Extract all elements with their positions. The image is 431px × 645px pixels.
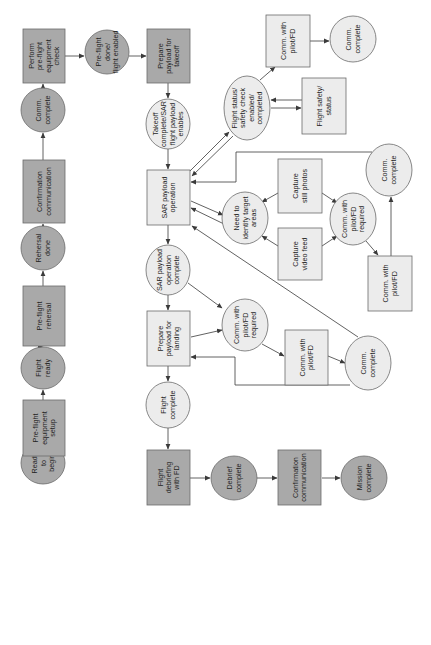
node-perform-check: Performpre-flightequipmentcheck bbox=[23, 29, 65, 83]
node-rehersal: Pre-flightrehersal bbox=[23, 286, 65, 346]
node-debrief-complete: Debriefcomplete bbox=[211, 456, 257, 500]
node-label-line: completed bbox=[255, 91, 264, 124]
edge-comm-pilot-req-low-to-comm-pilot-low bbox=[262, 344, 284, 356]
node-label-line: complete bbox=[364, 463, 373, 492]
node-flight-status-check: Flight status/safety checkenabled/comple… bbox=[224, 76, 270, 140]
edge-comm-pilot-req-mid-to-comm-pilot-mid bbox=[366, 241, 378, 255]
node-sar-op-complete: SAR payloadoperationcomplete bbox=[146, 245, 190, 295]
node-label: Missioncomplete bbox=[355, 463, 372, 492]
node-label-line: complete bbox=[389, 155, 398, 184]
node-preflight-done: Pre-flightdone/flight enabled bbox=[85, 30, 129, 74]
node-flight-ready: Flightready bbox=[21, 347, 65, 389]
edge-comm-pilot-low-to-comm-complete-low bbox=[328, 356, 345, 363]
node-comm-pilot-top: Comm. withpilot/FD bbox=[266, 15, 310, 67]
node-flight-complete: Flightcomplete bbox=[146, 382, 190, 428]
node-label-line: complete bbox=[234, 463, 243, 492]
node-label-line: video feed bbox=[300, 237, 309, 270]
node-label-line: complete bbox=[368, 348, 377, 377]
node-label: Confirmationcommunication bbox=[291, 453, 308, 501]
node-equip-setup: Pre-flightequipmentsetup bbox=[23, 400, 65, 456]
edge-prepare-landing-to-comm-pilot-req-low bbox=[191, 330, 222, 337]
node-label-line: operation bbox=[168, 183, 177, 213]
node-label-line: pilot/FD bbox=[288, 29, 297, 54]
node-label-line: communication bbox=[299, 453, 308, 501]
node-comm-complete-low: Comm.complete bbox=[345, 336, 391, 390]
node-label: Flightready bbox=[34, 359, 51, 377]
node-label: Comm.complete bbox=[380, 155, 397, 184]
node-label-line: takeoff bbox=[172, 45, 181, 66]
edge-flight-status-check-to-comm-pilot-top bbox=[260, 67, 275, 80]
edge-sar-operation-to-flight-status-check bbox=[189, 132, 229, 172]
node-label: Comm.complete bbox=[359, 348, 376, 377]
edge-capture-video-to-comm-pilot-req-mid bbox=[322, 236, 337, 246]
node-label-line: complete bbox=[168, 390, 177, 419]
edge-flight-status-check-to-sar-operation bbox=[192, 136, 233, 176]
node-label-line: communication bbox=[44, 167, 53, 215]
node-comm-complete-1: Comm.complete bbox=[21, 88, 65, 132]
node-label-line: landing bbox=[172, 327, 181, 350]
node-confirm-comm-1: Confirmationcommunication bbox=[23, 160, 65, 223]
node-label: Pre-flightrehersal bbox=[35, 302, 52, 331]
node-rehersal-done: Rehersaldone bbox=[21, 226, 65, 270]
node-label-line: begin bbox=[47, 454, 56, 472]
edge-comm-complete-low-to-sar-operation bbox=[192, 226, 358, 337]
edge-sar-operation-to-identify-targets bbox=[191, 201, 223, 215]
node-mission-complete: Missioncomplete bbox=[341, 456, 387, 500]
node-takeoff-complete: Takeoffcomplete/SARflight payloadenables bbox=[146, 99, 190, 149]
node-label-line: complete bbox=[353, 24, 362, 53]
node-label-line: required bbox=[249, 312, 258, 338]
node-label: SAR payloadoperation bbox=[160, 177, 177, 219]
node-label: Flight status/safety checkenabled/comple… bbox=[230, 88, 264, 129]
node-label-line: pilot/FD bbox=[306, 345, 315, 370]
node-label-line: status bbox=[324, 96, 333, 116]
node-label-line: complete bbox=[43, 95, 52, 124]
node-label-line: complete bbox=[172, 255, 181, 284]
sar-mission-flowchart: ReadytobeginPre-flightequipmentsetupFlig… bbox=[0, 0, 431, 645]
edge-capture-video-to-identify-targets bbox=[262, 236, 278, 246]
edge-identify-targets-to-sar-operation bbox=[191, 208, 224, 224]
node-comm-pilot-mid: Comm. withpilot/FD bbox=[368, 256, 412, 311]
node-comm-pilot-low: Comm. withpilot/FD bbox=[285, 330, 328, 385]
node-label-line: setup bbox=[48, 419, 57, 437]
node-label-line: required bbox=[357, 206, 366, 232]
node-debriefing: Flightdebriefingwith FD bbox=[147, 450, 190, 505]
node-label-line: rehersal bbox=[44, 303, 53, 329]
node-label-line: with FD bbox=[172, 465, 181, 490]
node-label: Comm.complete bbox=[34, 95, 51, 124]
node-identify-targets: Need toidentify targetareas bbox=[222, 192, 268, 244]
node-prepare-takeoff: Preparepayload fortakeoff bbox=[147, 29, 190, 83]
node-capture-video: Capturevideo feed bbox=[278, 228, 322, 280]
node-comm-complete-top: Comm.complete bbox=[330, 16, 376, 62]
edge-sar-op-complete-to-comm-pilot-req-low bbox=[188, 283, 222, 308]
node-label: Comm.complete bbox=[344, 24, 361, 53]
edge-capture-photos-to-identify-targets bbox=[262, 193, 278, 202]
node-label-line: ready bbox=[43, 359, 52, 377]
node-label: Debriefcomplete bbox=[225, 463, 242, 492]
node-flight-safety-status: Flight safety/status bbox=[302, 78, 346, 134]
node-label: Capturevideo feed bbox=[291, 237, 308, 270]
edge-capture-photos-to-comm-pilot-req-mid bbox=[322, 193, 337, 203]
node-label-line: areas bbox=[249, 209, 258, 227]
node-comm-pilot-req-low: Comm. withpilot/FDrequired bbox=[222, 299, 268, 351]
node-confirm-comm-2: Confirmationcommunication bbox=[278, 450, 321, 505]
node-label-line: check bbox=[52, 46, 61, 65]
node-sar-operation: SAR payloadoperation bbox=[147, 170, 190, 225]
nodes-layer: ReadytobeginPre-flightequipmentsetupFlig… bbox=[21, 15, 412, 505]
node-comm-pilot-req-mid: Comm. withpilot/FDrequired bbox=[330, 193, 376, 245]
node-label-line: enables bbox=[176, 111, 185, 137]
node-label: Confirmationcommunication bbox=[35, 167, 52, 215]
node-label-line: done bbox=[43, 240, 52, 256]
node-capture-photos: Capturestill photos bbox=[278, 159, 322, 213]
node-label-line: flight enabled bbox=[111, 31, 120, 74]
node-label: Capturestill photos bbox=[291, 169, 308, 203]
node-label-line: pilot/FD bbox=[390, 271, 399, 296]
node-label-line: still photos bbox=[300, 169, 309, 203]
node-prepare-landing: Preparepayload forlanding bbox=[147, 311, 190, 366]
node-comm-complete-mid: Comm.complete bbox=[366, 144, 412, 196]
